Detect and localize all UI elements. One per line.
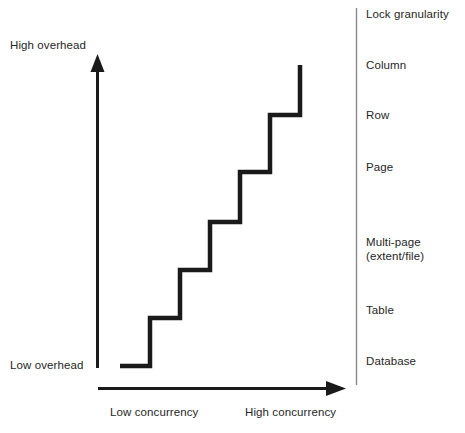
y-axis-arrow-icon [91,54,105,368]
granularity-label-row: Row [366,109,389,123]
lock-granularity-diagram: Lock granularity Column Row Page Multi-p… [0,0,465,433]
y-axis-top-label: High overhead [10,39,86,53]
granularity-label-page: Page [366,161,393,175]
x-axis-left-label: Low concurrency [110,406,198,420]
granularity-label-multi-page: Multi-page (extent/file) [366,236,424,263]
granularity-label-column: Column [366,59,406,73]
x-axis-arrow-icon [98,381,346,396]
y-axis-bottom-label: Low overhead [10,359,83,373]
granularity-label-database: Database [366,355,416,369]
granularity-scale-title: Lock granularity [366,8,449,22]
x-axis-right-label: High concurrency [245,406,336,420]
granularity-staircase [120,65,300,366]
granularity-label-table: Table [366,304,394,318]
